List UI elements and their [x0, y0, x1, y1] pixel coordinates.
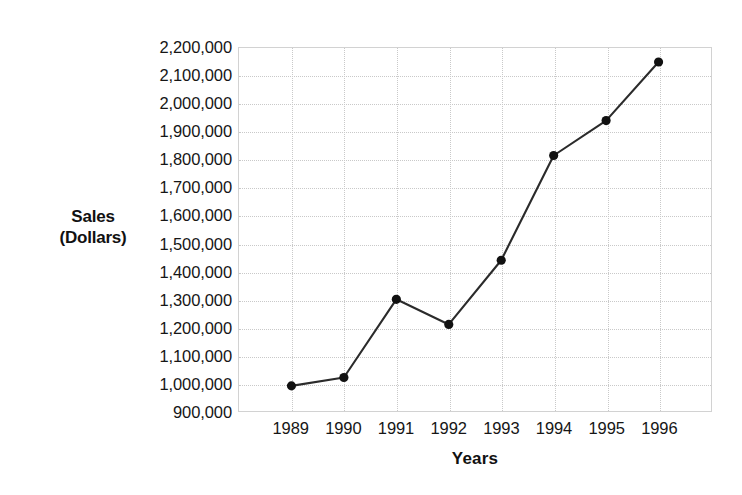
plot-area	[238, 47, 712, 412]
x-axis-tick-label: 1996	[624, 418, 694, 438]
data-point-marker	[287, 381, 296, 390]
y-axis-tick-label: 900,000	[128, 404, 232, 420]
y-axis-tick-label: 1,800,000	[128, 151, 232, 167]
y-axis-tick-label: 1,700,000	[128, 179, 232, 195]
data-point-marker	[444, 320, 453, 329]
y-axis-tick-label: 1,000,000	[128, 376, 232, 392]
y-axis-tick-label: 1,200,000	[128, 320, 232, 336]
x-axis-tick-labels: 19891990199119921993199419951996	[238, 418, 712, 442]
data-point-marker	[549, 151, 558, 160]
y-axis-tick-labels: 2,200,0002,100,0002,000,0001,900,0001,80…	[128, 47, 232, 412]
y-axis-tick-label: 2,100,000	[128, 67, 232, 83]
data-point-marker	[654, 57, 663, 66]
y-axis-tick-label: 1,300,000	[128, 292, 232, 308]
x-axis-title: Years	[238, 449, 712, 469]
y-axis-tick-label: 2,000,000	[128, 95, 232, 111]
sales-by-year-line-chart: Sales (Dollars) 2,200,0002,100,0002,000,…	[0, 0, 742, 495]
sales-line-path	[291, 62, 658, 386]
y-axis-tick-label: 1,100,000	[128, 348, 232, 364]
y-axis-tick-label: 1,900,000	[128, 123, 232, 139]
y-axis-tick-label: 1,600,000	[128, 207, 232, 223]
data-point-marker	[497, 256, 506, 265]
y-axis-tick-label: 1,500,000	[128, 236, 232, 252]
sales-series-line	[239, 48, 711, 411]
data-point-marker	[602, 116, 611, 125]
y-axis-tick-label: 1,400,000	[128, 264, 232, 280]
data-point-marker	[339, 373, 348, 382]
data-point-marker	[392, 295, 401, 304]
y-axis-tick-label: 2,200,000	[128, 39, 232, 55]
